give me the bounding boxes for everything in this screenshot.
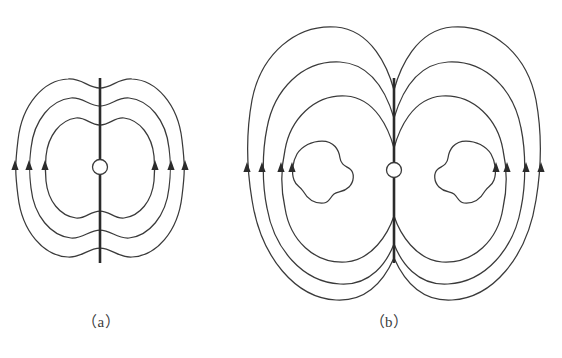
- panel-b-blob-right: [435, 141, 496, 203]
- panel-a-arrow-left-inner: [41, 160, 48, 170]
- panel-a-arrow-right-outer: [181, 160, 188, 170]
- panel-a-arrow-right-middle: [167, 160, 174, 170]
- panel-a-pole-circle: [93, 160, 108, 175]
- panel-b-arrow-right-blob: [492, 162, 499, 172]
- panel-b-arrow-left-blob: [288, 162, 295, 172]
- panel-b-arrow-left-middle: [258, 162, 265, 172]
- figure-container: （a）: [0, 0, 562, 358]
- panel-b-arrow-right-inner: [503, 162, 510, 172]
- panel-b-pole-circle: [387, 163, 402, 178]
- panel-b-blob-left: [293, 141, 354, 203]
- panel-a-caption: （a）: [82, 314, 120, 330]
- field-line-diagram: （a）: [0, 0, 562, 358]
- panel-a-arrow-left-outer: [11, 160, 18, 170]
- panel-a-arrow-left-middle: [25, 160, 32, 170]
- panel-a-arrow-right-inner: [151, 160, 158, 170]
- panel-b-arrow-right-middle: [522, 162, 529, 172]
- panel-b-arrow-left-inner: [277, 162, 284, 172]
- panel-b-arrow-right-outer: [537, 162, 544, 172]
- panel-b-arrow-left-outer: [243, 162, 250, 172]
- panel-b: （b）: [243, 27, 544, 330]
- panel-b-caption: （b）: [370, 314, 409, 330]
- panel-a: （a）: [11, 78, 188, 330]
